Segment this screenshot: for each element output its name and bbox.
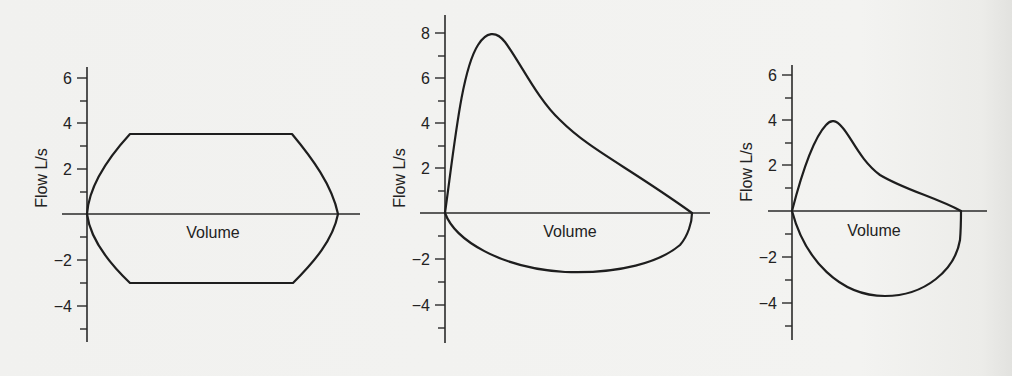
chart-fixed-obstruction: 6 4 2 −2 −4 Flow L/s Volume [33, 67, 360, 342]
y-tick-label: 4 [768, 112, 777, 129]
chart-variable-obstruction: 6 4 2 −2 −4 Flow L/s Volume [738, 65, 987, 340]
y-tick-label: 8 [421, 25, 430, 42]
y-tick-label: 6 [768, 67, 777, 84]
y-tick-label: 2 [768, 157, 777, 174]
chart-normal: 8 6 4 2 −2 −4 Flow L/s Volume [391, 15, 710, 343]
y-axis-label: Flow L/s [738, 142, 755, 202]
inspiratory-curve [445, 213, 692, 272]
y-tick-label: 4 [421, 115, 430, 132]
y-tick-label: −4 [759, 295, 777, 312]
expiratory-curve [792, 121, 961, 211]
expiratory-curve [87, 134, 338, 214]
y-tick-label: −2 [759, 249, 777, 266]
expiratory-curve [445, 34, 692, 213]
y-tick-label: 6 [421, 70, 430, 87]
figure-page: 6 4 2 −2 −4 Flow L/s Volume 8 6 4 2 −2 −… [0, 0, 1012, 376]
y-tick-label: 4 [63, 115, 72, 132]
y-tick-label: −4 [412, 297, 430, 314]
x-axis-label: Volume [847, 222, 900, 239]
y-tick-label: −2 [412, 251, 430, 268]
y-tick-label: −2 [54, 252, 72, 269]
flow-volume-loops-figure: 6 4 2 −2 −4 Flow L/s Volume 8 6 4 2 −2 −… [0, 0, 1012, 376]
x-axis-label: Volume [186, 224, 239, 241]
y-axis-label: Flow L/s [391, 148, 408, 208]
y-axis-label: Flow L/s [33, 148, 50, 208]
y-tick-label: 2 [421, 160, 430, 177]
y-tick-label: 6 [63, 70, 72, 87]
y-tick-label: −4 [54, 298, 72, 315]
y-tick-label: 2 [63, 161, 72, 178]
x-axis-label: Volume [543, 223, 596, 240]
